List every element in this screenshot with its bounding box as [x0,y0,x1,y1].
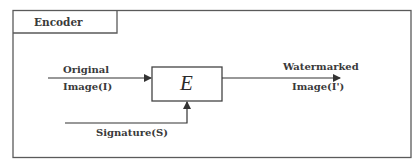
encoder-diagram: Encoder E Original Image(I) Watermarked … [0,0,420,167]
signature-arrow [65,102,187,123]
signature-label: Signature(S) [96,128,168,138]
encoder-block-label: E [180,73,193,94]
output-image-label-line2: Image(I') [292,82,344,92]
encoder-title: Encoder [34,17,83,28]
input-image-label-line2: Image(I) [63,82,112,92]
input-image-label-line1: Original [63,65,109,75]
output-image-label-line1: Watermarked [283,62,359,72]
